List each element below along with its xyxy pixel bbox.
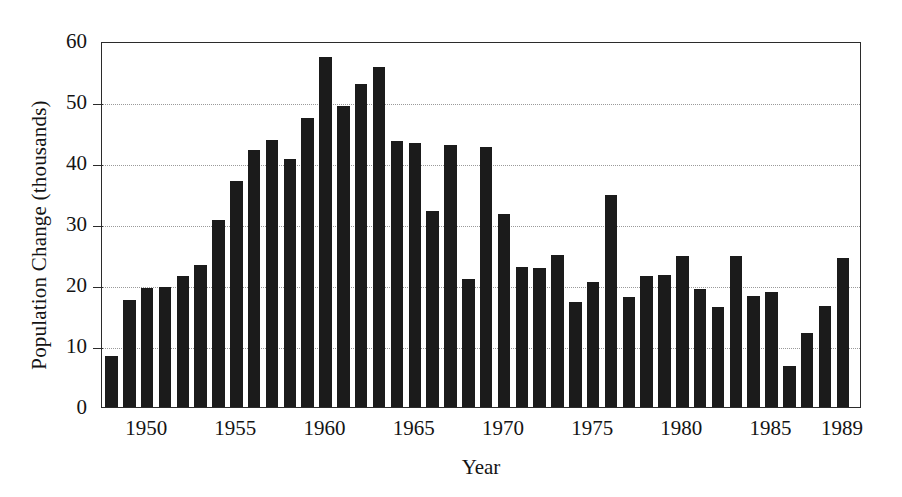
bar — [284, 159, 296, 407]
bar — [640, 276, 652, 407]
bar — [123, 300, 135, 407]
bar — [462, 279, 474, 407]
bar — [301, 118, 313, 407]
bar — [765, 292, 777, 407]
bar — [551, 255, 563, 407]
y-axis-tick-label: 20 — [41, 275, 87, 296]
bar — [712, 307, 724, 407]
bar — [498, 214, 510, 407]
y-axis-tick-label: 0 — [41, 397, 87, 418]
bar — [409, 143, 421, 407]
bar — [516, 267, 528, 407]
bar — [837, 258, 849, 407]
bar — [658, 275, 670, 407]
bar — [623, 297, 635, 407]
x-axis-tick-label: 1950 — [106, 417, 186, 439]
bar — [141, 288, 153, 407]
bar — [533, 268, 545, 407]
bar — [480, 147, 492, 407]
y-axis-tick-label: 30 — [41, 214, 87, 235]
bar — [373, 67, 385, 407]
bar — [177, 276, 189, 407]
bar — [266, 140, 278, 407]
x-axis-tick-label: 1975 — [552, 417, 632, 439]
bar — [783, 366, 795, 407]
bar — [587, 282, 599, 407]
plot-area — [101, 42, 861, 408]
bar — [801, 333, 813, 407]
x-axis-tick-label: 1970 — [463, 417, 543, 439]
bar — [391, 141, 403, 407]
y-axis-title: Population Change (thousands) — [22, 25, 56, 445]
bar — [355, 84, 367, 407]
bar — [159, 287, 171, 407]
y-axis-tick-label: 60 — [41, 31, 87, 52]
bar — [194, 265, 206, 407]
y-axis-tick-label: 40 — [41, 153, 87, 174]
bar — [444, 145, 456, 407]
x-axis-tick-label: 1989 — [802, 417, 882, 439]
x-axis-tick-label: 1960 — [285, 417, 365, 439]
bar — [694, 289, 706, 407]
bar — [747, 296, 759, 407]
y-axis-tick-label: 10 — [41, 336, 87, 357]
bar — [105, 356, 117, 407]
bar — [230, 181, 242, 407]
y-axis-tick-label: 50 — [41, 92, 87, 113]
bar — [819, 306, 831, 407]
bar — [730, 256, 742, 407]
x-axis-tick-label: 1985 — [731, 417, 811, 439]
x-axis-title: Year — [101, 455, 861, 479]
bar — [212, 220, 224, 407]
x-axis-tick-label: 1955 — [195, 417, 275, 439]
bar — [319, 57, 331, 407]
bar — [426, 211, 438, 407]
bar — [337, 106, 349, 407]
bar — [605, 195, 617, 407]
bar-series — [102, 43, 860, 407]
bar-chart-figure: Population Change (thousands) 0102030405… — [0, 0, 902, 497]
bar — [676, 256, 688, 407]
x-axis-tick-label: 1965 — [374, 417, 454, 439]
bar — [248, 150, 260, 407]
x-axis-tick-label: 1980 — [641, 417, 721, 439]
bar — [569, 302, 581, 407]
